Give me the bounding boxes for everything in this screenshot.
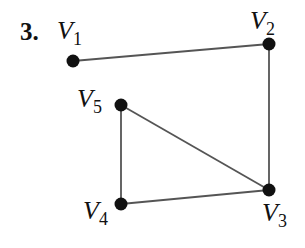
edge-v1-v2 bbox=[73, 44, 269, 61]
vertex-v1 bbox=[67, 55, 80, 68]
vertex-v5 bbox=[115, 99, 128, 112]
vertex-v3 bbox=[263, 184, 276, 197]
vertex-v4 bbox=[115, 198, 128, 211]
edges bbox=[73, 44, 269, 204]
label-v4: V4 bbox=[83, 196, 108, 230]
edge-v4-v3 bbox=[121, 190, 269, 204]
label-v5: V5 bbox=[77, 84, 102, 118]
label-v3: V3 bbox=[262, 198, 287, 232]
label-v1: V1 bbox=[57, 16, 82, 50]
nodes bbox=[67, 38, 276, 211]
edge-v5-v3 bbox=[121, 105, 269, 190]
label-v2: V2 bbox=[250, 6, 275, 40]
